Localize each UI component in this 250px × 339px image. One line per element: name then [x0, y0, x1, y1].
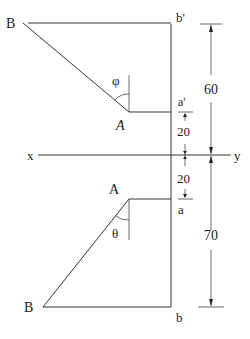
b-label: b — [176, 310, 183, 325]
dim-20-lower: 20 — [177, 171, 190, 186]
top-point-B: B — [24, 300, 33, 315]
y-axis-label: y — [234, 148, 241, 163]
front-view-line-AB — [23, 23, 129, 112]
front-point-B: B — [6, 16, 15, 31]
arrow-icon — [183, 194, 187, 198]
projection-diagram: x y B A b' a' φ A B a b θ 20 20 60 70 — [0, 0, 250, 339]
front-point-A: A — [115, 118, 125, 133]
arrow-icon — [209, 147, 213, 154]
x-axis-label: x — [27, 148, 34, 163]
top-view-line-AB — [43, 199, 129, 307]
dim-70: 70 — [204, 228, 218, 243]
theta-angle-arc — [116, 216, 129, 220]
arrow-icon — [183, 151, 187, 154]
arrow-icon — [209, 156, 213, 163]
theta-label: θ — [112, 226, 118, 241]
phi-angle-arc — [115, 94, 129, 100]
phi-label: φ — [112, 73, 120, 88]
top-point-A: A — [109, 182, 120, 197]
a-prime-label: a' — [178, 95, 186, 109]
arrow-icon — [209, 25, 213, 32]
b-prime-label: b' — [176, 10, 185, 25]
a-label: a — [178, 202, 184, 217]
arrow-icon — [209, 299, 213, 306]
arrow-icon — [183, 156, 187, 159]
dim-20-upper: 20 — [177, 124, 190, 139]
dim-60: 60 — [204, 82, 218, 97]
arrow-icon — [183, 113, 187, 117]
